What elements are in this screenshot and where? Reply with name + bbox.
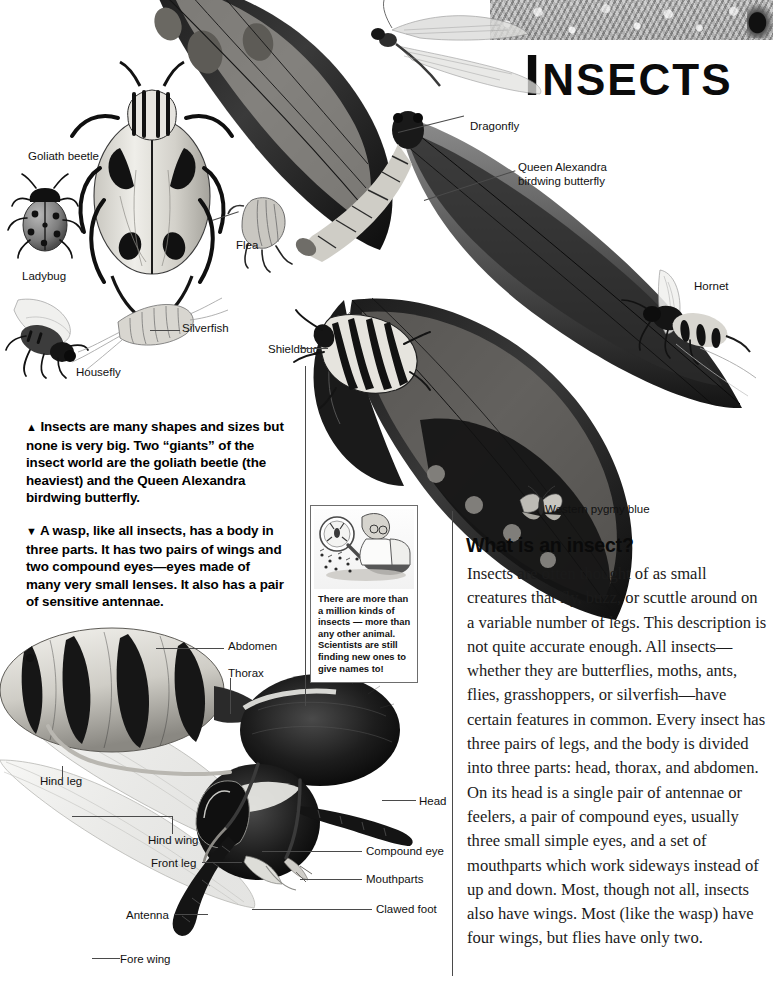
label-queen-alexandra-butterfly: Queen Alexandra birdwing butterfly (518, 161, 607, 188)
fact-box-text: There are more than a million kinds of i… (311, 589, 417, 674)
wasp-leader-compound-eye (262, 851, 362, 852)
wasp-leader-thorax (230, 678, 231, 714)
article-paragraph: Insects are often thought of as small cr… (467, 562, 767, 951)
ladybug-illustration (8, 174, 82, 258)
fact-box: There are more than a million kinds of i… (310, 505, 418, 683)
page-title-initial: I (524, 42, 542, 107)
caption-sizes-marker: ▲ (26, 421, 37, 433)
label-silverfish: Silverfish (182, 322, 229, 336)
label-goliath-beetle: Goliath beetle (28, 150, 99, 164)
column-divider-right (452, 511, 453, 976)
caption-wasp-text: A wasp, like all insects, has a body in … (26, 523, 284, 609)
wasp-label-abdomen: Abdomen (228, 640, 277, 654)
label-flea: Flea (236, 239, 258, 253)
wasp-label-head: Head (419, 795, 447, 809)
column-divider-left (305, 366, 306, 706)
wasp-leader-clawed-foot (252, 909, 372, 910)
leader-queen-alexandra (424, 170, 516, 201)
leader-dragonfly (398, 116, 464, 133)
wasp-leader-hind-wing-v (172, 816, 173, 834)
wasp-label-compound-eye: Compound eye (366, 845, 444, 859)
insects-page: INSECTS (0, 0, 773, 990)
article-heading: What is an insect? (466, 534, 766, 557)
article-body: Insects are often thought of as small cr… (467, 562, 767, 951)
label-queen-alexandra-line2: birdwing butterfly (518, 175, 605, 187)
wasp-label-fore-wing: Fore wing (120, 953, 171, 967)
leader-shieldbug (300, 348, 328, 349)
goliath-beetle-illustration (72, 62, 232, 318)
wasp-leader-antenna (174, 914, 208, 915)
label-housefly: Housefly (76, 366, 121, 380)
label-queen-alexandra-line1: Queen Alexandra (518, 161, 607, 173)
fact-box-illustration (314, 509, 414, 589)
label-dragonfly: Dragonfly (470, 120, 519, 134)
leader-silverfish (150, 330, 180, 331)
wasp-leader-fore-wing (92, 958, 120, 959)
page-title-rest: NSECTS (542, 55, 732, 104)
page-title: INSECTS (524, 46, 764, 104)
caption-wasp: ▼ A wasp, like all insects, has a body i… (26, 522, 288, 611)
shieldbug-illustration (294, 310, 430, 408)
wasp-label-clawed-foot: Clawed foot (376, 903, 437, 917)
caption-sizes-text: Insects are many shapes and sizes but no… (26, 419, 284, 505)
wasp-leader-head (382, 800, 416, 801)
wasp-leader-front-leg (202, 862, 242, 863)
wasp-label-thorax: Thorax (228, 667, 264, 681)
wasp-label-antenna: Antenna (126, 909, 169, 923)
wasp-leader-hind-wing-h (72, 816, 172, 817)
flea-illustration (228, 198, 292, 272)
scientist-magnifier-cartoon (314, 509, 414, 589)
top-photo-strip (490, 0, 773, 40)
caption-wasp-marker: ▼ (26, 525, 37, 537)
wasp-label-front-leg: Front leg (151, 857, 196, 871)
wasp-leader-hind-leg (62, 766, 63, 778)
caption-sizes: ▲ Insects are many shapes and sizes but … (26, 418, 288, 507)
label-shieldbug: Shieldbug (268, 343, 319, 357)
leader-flea (212, 211, 239, 221)
label-ladybug: Ladybug (22, 270, 66, 284)
wasp-label-mouthparts: Mouthparts (366, 873, 424, 887)
hornet-illustration (622, 270, 756, 396)
label-hornet: Hornet (694, 280, 729, 294)
wasp-leader-abdomen (156, 648, 224, 649)
wasp-leader-mouthparts (300, 879, 362, 880)
label-western-pygmy-blue: Western pygmy blue (545, 503, 650, 517)
wasp-label-hind-wing: Hind wing (148, 834, 199, 848)
